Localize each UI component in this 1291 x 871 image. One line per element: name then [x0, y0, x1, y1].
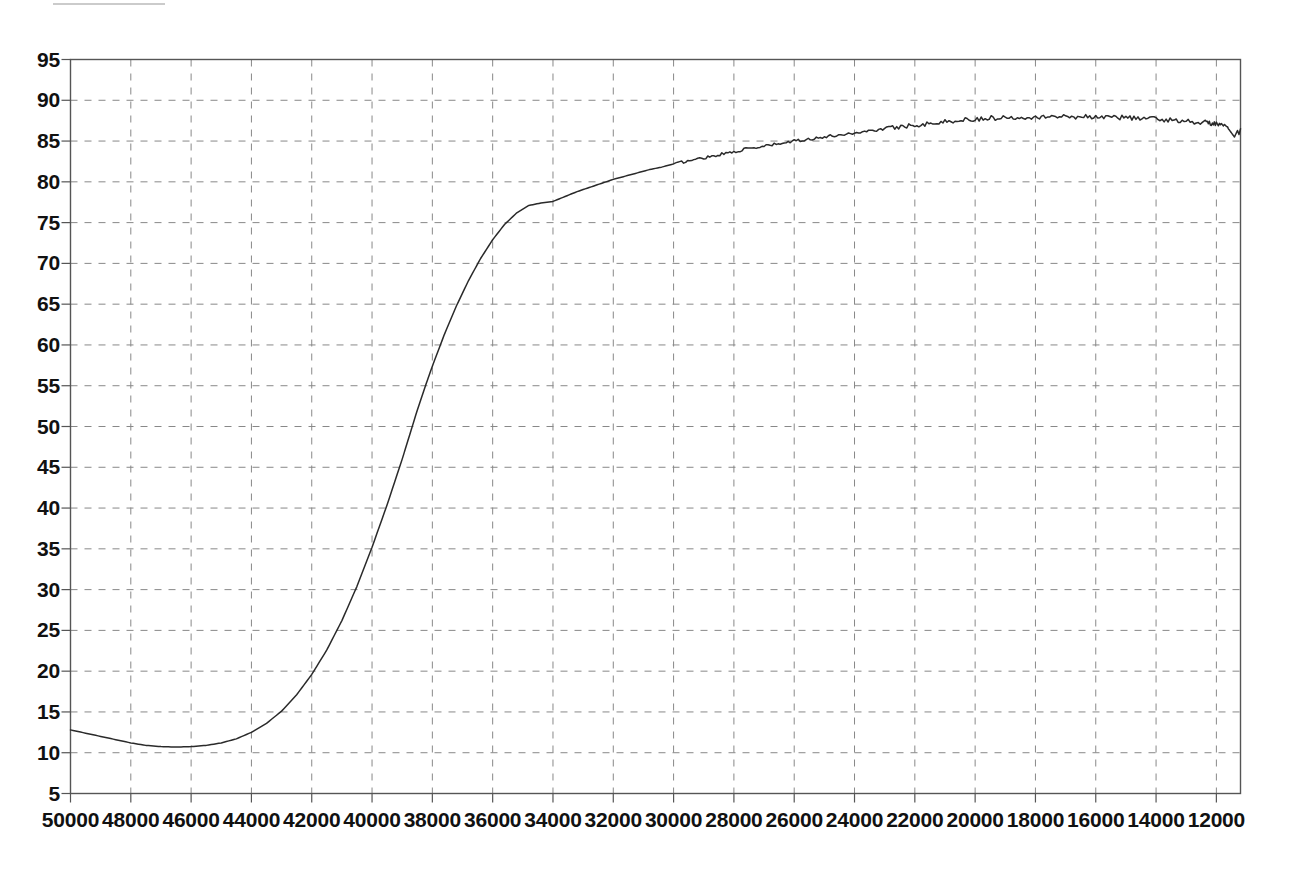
y-tick-label-10: 10 [12, 741, 60, 765]
x-tick-label-14000: 14000 [1127, 808, 1184, 832]
y-tick-label-70: 70 [12, 251, 60, 275]
y-tick-label-50: 50 [12, 415, 60, 439]
x-tick-label-38000: 38000 [404, 808, 461, 832]
y-tick-label-60: 60 [12, 333, 60, 357]
y-tick-label-20: 20 [12, 659, 60, 683]
x-tick-label-42000: 42000 [283, 808, 340, 832]
series-line-transmittance [71, 115, 1241, 747]
y-tick-label-85: 85 [12, 129, 60, 153]
x-tick-label-30000: 30000 [645, 808, 702, 832]
y-tick-label-25: 25 [12, 618, 60, 642]
x-tick-label-40000: 40000 [343, 808, 400, 832]
y-tick-label-15: 15 [12, 700, 60, 724]
x-tick-label-46000: 46000 [162, 808, 219, 832]
x-tick-label-26000: 26000 [766, 808, 823, 832]
y-tick-label-35: 35 [12, 537, 60, 561]
x-tick-label-12000: 12000 [1188, 808, 1245, 832]
grid-layer [71, 60, 1241, 794]
x-tick-label-22000: 22000 [886, 808, 943, 832]
y-tick-label-90: 90 [12, 88, 60, 112]
x-tick-label-50000: 50000 [42, 808, 99, 832]
y-tick-label-75: 75 [12, 211, 60, 235]
spectrum-chart: 9590858075706560555045403530252015105 50… [0, 0, 1291, 871]
x-tick-label-34000: 34000 [524, 808, 581, 832]
x-tick-label-28000: 28000 [705, 808, 762, 832]
y-tick-label-40: 40 [12, 496, 60, 520]
x-tick-label-32000: 32000 [585, 808, 642, 832]
x-tick-label-16000: 16000 [1067, 808, 1124, 832]
y-tick-label-45: 45 [12, 455, 60, 479]
x-tick-label-48000: 48000 [102, 808, 159, 832]
x-tick-label-24000: 24000 [826, 808, 883, 832]
x-tick-label-44000: 44000 [223, 808, 280, 832]
tick-marks-layer [62, 60, 1217, 803]
y-tick-label-65: 65 [12, 292, 60, 316]
x-tick-label-36000: 36000 [464, 808, 521, 832]
y-tick-label-80: 80 [12, 170, 60, 194]
y-tick-label-30: 30 [12, 578, 60, 602]
y-tick-label-5: 5 [12, 782, 60, 806]
y-tick-label-55: 55 [12, 374, 60, 398]
x-tick-label-20000: 20000 [946, 808, 1003, 832]
x-tick-label-18000: 18000 [1007, 808, 1064, 832]
y-tick-label-95: 95 [12, 48, 60, 72]
data-series-layer [71, 115, 1241, 747]
plot-canvas [0, 0, 1291, 871]
